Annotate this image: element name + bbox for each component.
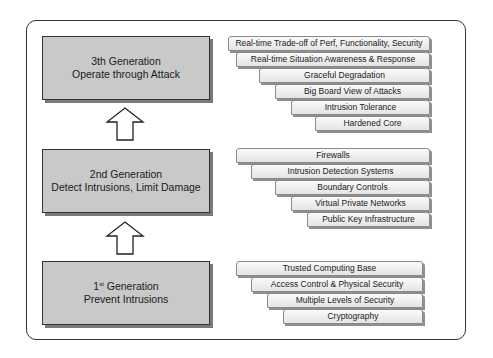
gen2-subtitle: Detect Intrusions, Limit Damage xyxy=(51,181,200,194)
capability-tab: Big Board View of Attacks xyxy=(275,84,430,99)
third-generation-box: 3th Generation Operate through Attack xyxy=(42,36,210,100)
capability-tab: Hardened Core xyxy=(315,116,430,131)
capability-tab: Cryptography xyxy=(283,309,423,324)
gen3-subtitle: Operate through Attack xyxy=(72,68,180,81)
capability-tab: Boundary Controls xyxy=(275,180,430,195)
up-arrow-icon xyxy=(105,221,145,255)
capability-tab: Public Key Infrastructure xyxy=(307,212,430,227)
capability-tab: Virtual Private Networks xyxy=(291,196,430,211)
capability-tab: Real-time Trade-off of Perf, Functionali… xyxy=(228,36,430,51)
capability-tab: Real-time Situation Awareness & Response xyxy=(236,52,430,67)
capability-tab: Firewalls xyxy=(236,148,430,163)
capability-tab: Intrusion Detection Systems xyxy=(251,164,430,179)
gen1-subtitle: Prevent Intrusions xyxy=(84,293,169,306)
capability-tab: Access Control & Physical Security xyxy=(251,277,423,292)
capability-tab: Trusted Computing Base xyxy=(236,261,423,276)
capability-tab: Multiple Levels of Security xyxy=(267,293,423,308)
second-generation-box: 2nd Generation Detect Intrusions, Limit … xyxy=(42,149,210,213)
gen1-title: 1st Generation xyxy=(93,280,158,293)
up-arrow-icon xyxy=(105,107,145,141)
capability-tab: Intrusion Tolerance xyxy=(291,100,430,115)
first-generation-box: 1st Generation Prevent Intrusions xyxy=(42,261,210,325)
capability-tab: Graceful Degradation xyxy=(259,68,430,83)
gen2-title: 2nd Generation xyxy=(90,168,162,181)
gen3-title: 3th Generation xyxy=(91,55,160,68)
